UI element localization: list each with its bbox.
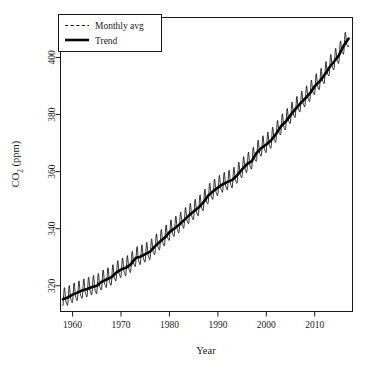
legend-label-monthly-avg: Monthly avg	[95, 21, 144, 31]
x-tick-label: 1980	[160, 320, 179, 330]
y-tick-label: 380	[47, 107, 57, 122]
x-axis-title: Year	[196, 345, 216, 356]
x-tick-label: 1970	[112, 320, 131, 330]
legend-label-trend: Trend	[95, 36, 118, 46]
y-axis-title-prefix: CO	[10, 172, 21, 187]
chart-legend: Monthly avg Trend	[59, 15, 162, 52]
y-axis-title-suffix: (ppm)	[10, 140, 22, 169]
x-tick-label: 2010	[305, 320, 324, 330]
chart-canvas: 320340360380400 196019701980199020002010…	[0, 0, 375, 373]
y-tick-label: 400	[47, 50, 57, 65]
x-tick-label: 1990	[208, 320, 227, 330]
y-tick-label: 320	[47, 278, 57, 293]
y-tick-label: 360	[47, 164, 57, 179]
y-tick-label: 340	[47, 221, 57, 236]
x-tick-label: 2000	[257, 320, 276, 330]
x-tick-label: 1960	[63, 320, 82, 330]
co2-chart-figure: 320340360380400 196019701980199020002010…	[0, 0, 375, 373]
